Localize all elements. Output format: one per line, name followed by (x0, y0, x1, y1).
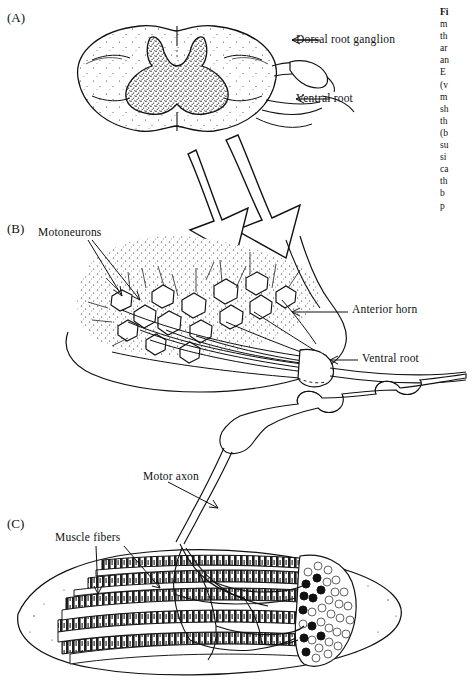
caption-line: m (440, 18, 474, 30)
label-motor-axon: Motor axon (143, 470, 199, 482)
caption-line: th (440, 30, 474, 42)
caption-line: ca (440, 163, 474, 175)
axon-to-muscle (176, 448, 232, 544)
figure-motor-unit: (A) (B) (C) Dorsal root ganglion Ventral… (0, 0, 474, 687)
label-dorsal-root-ganglion: Dorsal root ganglion (296, 33, 395, 45)
caption-line: an (440, 54, 474, 66)
panel-b-label: (B) (7, 221, 24, 237)
motor-axon-myelinated (220, 374, 466, 454)
dorsal-root-ganglion-body (290, 61, 328, 88)
figure-artwork (0, 0, 474, 687)
label-ventral-root-b: Ventral root (362, 352, 419, 364)
caption-line: si (440, 151, 474, 163)
panel-c-label: (C) (7, 516, 24, 532)
caption-line: Fi (440, 6, 474, 18)
caption-line: b (440, 187, 474, 199)
caption-line: sh (440, 103, 474, 115)
caption-line: p (440, 200, 474, 212)
panel-c-muscle (18, 544, 402, 675)
caption-line: ar (440, 42, 474, 54)
caption-line: su (440, 139, 474, 151)
caption-line: m (440, 91, 474, 103)
caption-line: (b (440, 127, 474, 139)
caption-line: th (440, 175, 474, 187)
caption-line: w (440, 212, 474, 216)
panel-a-label: (A) (7, 10, 25, 26)
label-ventral-root-a: Ventral root (296, 92, 353, 104)
label-motoneurons: Motoneurons (38, 226, 102, 238)
caption-line: th (440, 115, 474, 127)
figure-caption: FimtharanE(vmshth(bsusicathbpwnna (440, 6, 474, 216)
caption-line: (v (440, 79, 474, 91)
label-anterior-horn: Anterior horn (352, 303, 418, 315)
label-muscle-fibers: Muscle fibers (55, 531, 121, 543)
caption-line: E (440, 66, 474, 78)
ventral-root-bundle (298, 349, 333, 386)
